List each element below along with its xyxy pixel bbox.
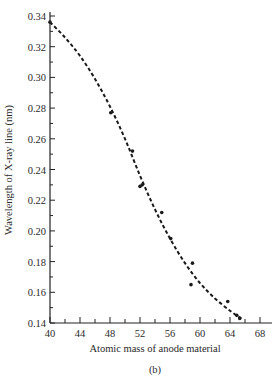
- data-point: [131, 149, 135, 153]
- y-tick-label: 0.18: [28, 257, 46, 268]
- y-tick-label: 0.14: [28, 318, 47, 329]
- y-tick-label: 0.34: [28, 11, 47, 22]
- x-axis: 4044485256606468: [45, 317, 272, 339]
- x-tick-label: 40: [45, 328, 56, 339]
- y-tick-label: 0.32: [28, 42, 46, 53]
- x-tick-label: 44: [75, 328, 86, 339]
- y-tick-label: 0.28: [28, 103, 46, 114]
- data-point: [226, 300, 230, 304]
- y-tick-label: 0.24: [28, 165, 47, 176]
- y-tick-label: 0.26: [28, 134, 46, 145]
- plot-area: [48, 20, 241, 320]
- y-axis-title: Wavelength of X-ray line (nm): [3, 105, 15, 235]
- x-tick-label: 56: [165, 328, 176, 339]
- x-tick-label: 52: [135, 328, 146, 339]
- y-tick-label: 0.22: [28, 195, 46, 206]
- fitted-curve: [50, 22, 241, 318]
- y-tick-label: 0.20: [28, 226, 46, 237]
- y-tick-label: 0.30: [28, 72, 46, 83]
- data-point: [160, 211, 164, 215]
- y-axis: 0.140.160.180.200.220.240.260.280.300.32…: [28, 11, 55, 329]
- x-tick-label: 64: [225, 328, 236, 339]
- x-tick-label: 68: [255, 328, 266, 339]
- data-point: [189, 283, 193, 287]
- data-point: [191, 261, 195, 265]
- x-tick-label: 48: [105, 328, 116, 339]
- chart-svg: 4044485256606468 0.140.160.180.200.220.2…: [0, 0, 274, 377]
- x-axis-title: Atomic mass of anode material: [89, 343, 220, 354]
- y-tick-label: 0.16: [28, 287, 46, 298]
- x-tick-label: 60: [195, 328, 206, 339]
- figure-caption: (b): [149, 364, 162, 376]
